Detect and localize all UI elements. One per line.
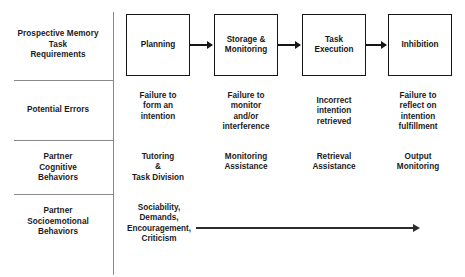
socioemotional-behavior-text: Sociability,Demands,Encouragement,Critic…: [119, 203, 199, 245]
arrow-execution-to-inhibition: [366, 44, 386, 46]
stage-label-inhibition: Inhibition: [399, 40, 442, 51]
row-label-partner-cognitive-behaviors: PartnerCognitiveBehaviors: [6, 152, 110, 184]
row-divider-3: [14, 194, 113, 195]
cognitive-behavior-storage-monitoring: MonitoringAssistance: [209, 152, 283, 173]
stage-box-planning[interactable]: Planning: [126, 14, 190, 76]
arrow-storage-to-execution: [278, 44, 300, 46]
stage-label-task-execution: TaskExecution: [311, 35, 356, 56]
stage-box-storage-monitoring[interactable]: Storage &Monitoring: [214, 14, 278, 76]
socioemotional-span-arrow: [196, 227, 418, 229]
row-divider-2: [14, 140, 113, 141]
stage-box-task-execution[interactable]: TaskExecution: [302, 14, 366, 76]
column-divider: [113, 12, 114, 275]
row-label-potential-errors: Potential Errors: [6, 105, 110, 116]
stage-label-storage-monitoring: Storage &Monitoring: [222, 35, 270, 56]
stage-label-planning: Planning: [138, 40, 179, 51]
cognitive-behavior-inhibition: OutputMonitoring: [381, 152, 455, 173]
potential-error-inhibition: Failure toreflect onintentionfulfillment: [381, 91, 455, 133]
potential-error-storage-monitoring: Failure tomonitorand/orinterference: [209, 91, 283, 133]
potential-error-planning: Failure toform anintention: [121, 91, 195, 122]
row-label-pm-task-requirements: Prospective MemoryTaskRequirements: [6, 29, 110, 61]
arrow-planning-to-storage: [190, 44, 212, 46]
cognitive-behavior-task-execution: RetrievalAssistance: [297, 152, 371, 173]
potential-error-task-execution: Incorrectintentionretrieved: [297, 96, 371, 127]
diagram-canvas: Prospective MemoryTaskRequirements Poten…: [0, 0, 465, 277]
cognitive-behavior-planning: Tutoring&Task Division: [121, 152, 195, 183]
row-label-partner-socioemotional-behaviors: PartnerSocioemotionalBehaviors: [6, 206, 110, 238]
stage-box-inhibition[interactable]: Inhibition: [388, 14, 452, 76]
row-divider-1: [14, 80, 113, 81]
